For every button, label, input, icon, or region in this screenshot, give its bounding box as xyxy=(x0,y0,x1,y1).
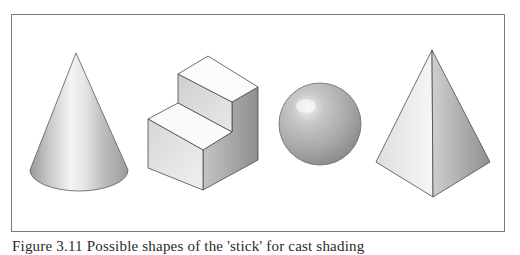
pyramid-shape xyxy=(376,50,490,197)
figure-caption: Figure 3.11 Possible shapes of the 'stic… xyxy=(12,238,364,255)
sphere-shape xyxy=(279,83,361,165)
cone-shape xyxy=(30,53,128,191)
stepped-block-shape xyxy=(148,56,258,190)
